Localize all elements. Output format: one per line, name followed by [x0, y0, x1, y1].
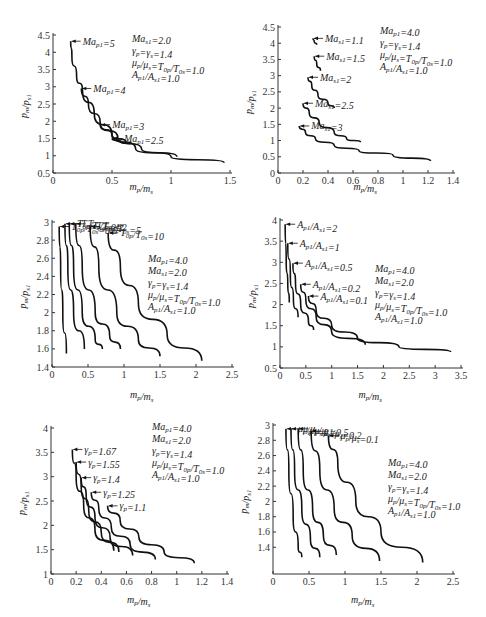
y-tick-label: 2 — [43, 520, 48, 531]
y-tick-label: 1 — [270, 135, 275, 146]
subplot-e: 00.20.40.60.811.21.411.522.533.54mp/mspm… — [16, 421, 233, 609]
series-curve — [285, 224, 289, 302]
x-tick-label: 2 — [194, 369, 199, 380]
x-tick-label: 0 — [276, 175, 281, 186]
y-tick-label: 0.5 — [263, 151, 276, 162]
series-curve — [311, 431, 379, 561]
y-tick-label: 4.5 — [263, 22, 276, 33]
x-tick-label: 1.5 — [154, 369, 167, 380]
series-curve — [108, 506, 195, 563]
series-label: Mas1=3 — [310, 120, 342, 133]
y-tick-label: 2 — [265, 496, 270, 507]
figure-canvas: 00.511.50.511.522.533.544.5mp/mspm/ps1Ma… — [0, 0, 486, 617]
y-tick-label: 3 — [44, 217, 49, 228]
x-tick-label: 1.4 — [447, 175, 460, 186]
parameter-text: γp=γs=1.4 — [388, 481, 428, 496]
parameter-text: Mas1=2.0 — [387, 469, 427, 482]
x-axis-label: mp/ms — [354, 181, 378, 196]
y-tick-label: 1.5 — [38, 133, 51, 144]
x-tick-label: 2 — [381, 370, 386, 381]
y-tick-label: 3.5 — [38, 64, 51, 75]
parameter-text: Mas1=2.0 — [147, 265, 187, 278]
x-tick-label: 0 — [50, 369, 55, 380]
x-tick-label: 3.5 — [455, 370, 468, 381]
y-tick-label: 1 — [45, 150, 50, 161]
subplot-d: 00.511.522.533.50.511.522.533.54mp/mspm/… — [245, 215, 467, 405]
x-axis-label: mp/ms — [359, 389, 383, 404]
x-tick-label: 0.2 — [70, 576, 83, 587]
y-tick-label: 2.5 — [38, 99, 51, 110]
series-curve — [76, 224, 121, 349]
subplot-c: 00.511.522.51.41.61.822.22.42.62.83mp/ms… — [17, 217, 238, 405]
y-tick-label: 0.5 — [38, 168, 51, 179]
y-tick-label: 4 — [45, 47, 50, 58]
y-tick-label: 3 — [272, 257, 277, 268]
y-tick-label: 2.5 — [265, 278, 278, 289]
series-label: γp=1.4 — [93, 472, 120, 485]
x-tick-label: 1 — [174, 576, 179, 587]
y-tick-label: 2.4 — [258, 465, 271, 476]
x-axis-label: mp/ms — [130, 181, 154, 196]
x-tick-label: 0.8 — [145, 576, 158, 587]
x-tick-label: 1 — [329, 370, 334, 381]
series-label: Map1=5 — [82, 36, 115, 49]
series-label: Mas1=2 — [319, 72, 351, 85]
x-tick-label: 1 — [401, 175, 406, 186]
parameter-text: γp=γs=1.4 — [375, 287, 415, 302]
y-tick-label: 2.5 — [36, 496, 49, 507]
x-tick-label: 2.5 — [226, 369, 239, 380]
x-axis-label: mp/ms — [130, 389, 154, 404]
x-tick-label: 0 — [278, 370, 283, 381]
x-tick-label: 2.5 — [403, 370, 416, 381]
x-axis-label: mp/ms — [351, 594, 375, 609]
x-tick-label: 0.2 — [297, 175, 310, 186]
y-tick-label: 1.5 — [36, 544, 49, 555]
x-tick-label: 0.5 — [303, 576, 316, 587]
x-tick-label: 0 — [49, 576, 54, 587]
x-tick-label: 1.2 — [196, 576, 209, 587]
y-tick-label: 3.5 — [265, 236, 278, 247]
series-label: Map1=3 — [111, 119, 144, 132]
x-tick-label: 0.5 — [106, 175, 119, 186]
y-tick-label: 4 — [43, 423, 48, 434]
x-tick-label: 3 — [433, 370, 438, 381]
y-tick-label: 2.2 — [37, 289, 50, 300]
y-tick-label: 4 — [272, 215, 277, 226]
y-tick-label: 2 — [272, 299, 277, 310]
x-axis-label: mp/ms — [127, 594, 151, 609]
y-tick-label: 0.5 — [265, 363, 278, 374]
series-curve — [288, 243, 298, 317]
y-tick-label: 2.8 — [258, 435, 271, 446]
y-tick-label: 1.5 — [263, 119, 276, 130]
y-tick-label: 2.5 — [263, 86, 276, 97]
parameter-text: γp=γs=1.4 — [152, 445, 192, 460]
y-tick-label: 3 — [265, 420, 270, 431]
y-tick-label: 1.8 — [258, 511, 271, 522]
y-tick-label: 1.5 — [265, 320, 278, 331]
x-tick-label: 1 — [169, 175, 174, 186]
x-tick-label: 0.4 — [95, 576, 108, 587]
y-tick-label: 2.2 — [258, 481, 271, 492]
y-tick-label: 2.4 — [37, 271, 50, 282]
x-tick-label: 2 — [415, 576, 420, 587]
x-tick-label: 1.2 — [422, 175, 435, 186]
y-tick-label: 3 — [270, 70, 275, 81]
x-tick-label: 1.5 — [351, 370, 364, 381]
x-tick-label: 0 — [51, 175, 56, 186]
series-label: γp=1.67 — [84, 444, 117, 457]
y-tick-label: 2.6 — [258, 450, 271, 461]
y-tick-label: 1 — [272, 341, 277, 352]
parameter-text: Map1=4.0 — [379, 25, 420, 38]
series-label: Ap1/As1=1 — [299, 238, 340, 253]
y-axis-label: pm/ps1 — [243, 90, 258, 115]
series-label: Map1=4 — [92, 83, 125, 96]
parameter-text: Mas1=2.0 — [151, 433, 191, 446]
x-tick-label: 1.5 — [224, 175, 237, 186]
y-axis-label: pm/ps1 — [16, 491, 31, 516]
x-tick-label: 1.4 — [221, 576, 234, 587]
series-label: Mas1=1.5 — [325, 51, 365, 64]
y-tick-label: 2.6 — [37, 253, 50, 264]
x-tick-label: 0 — [271, 576, 276, 587]
x-tick-label: 0.4 — [322, 175, 335, 186]
y-tick-label: 1.6 — [37, 343, 50, 354]
